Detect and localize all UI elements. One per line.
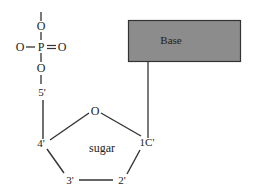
phosphate-bottom-oxygen: O xyxy=(37,61,46,75)
carbon-1-label: 1C' xyxy=(140,136,155,148)
sugar-label: sugar xyxy=(89,141,115,155)
base-box xyxy=(129,21,241,62)
phosphate-top-oxygen: O xyxy=(37,19,46,33)
phosphate-left-oxygen: O xyxy=(16,40,25,54)
c1-c2-bond xyxy=(127,150,140,174)
c4-o-bond xyxy=(50,113,89,140)
ring-oxygen: O xyxy=(91,104,100,118)
carbon-4-label: 4' xyxy=(37,137,45,149)
carbon-3-label: 3' xyxy=(66,174,74,186)
o-c1-bond xyxy=(101,113,141,136)
nucleotide-diagram: O P O O O 5' 4' O 1C' 2' 3' sugar Base xyxy=(0,0,254,192)
phosphorus: P xyxy=(38,40,45,54)
c3-c4-bond xyxy=(47,149,64,173)
base-label: Base xyxy=(160,34,182,46)
phosphate-right-oxygen: O xyxy=(58,40,67,54)
carbon-2-label: 2' xyxy=(118,174,126,186)
carbon-5-label: 5' xyxy=(38,86,46,98)
